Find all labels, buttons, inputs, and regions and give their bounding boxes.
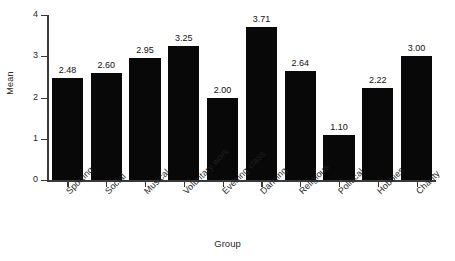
bar-value-label-hobbies: 2.22 xyxy=(365,76,391,85)
bar-value-label-evening-class: 2.00 xyxy=(210,86,236,95)
bar-musical xyxy=(129,58,160,180)
bar-social xyxy=(91,73,122,180)
bar-sporting xyxy=(52,78,83,180)
bar-value-label-sporting: 2.48 xyxy=(54,66,80,75)
bar-value-label-voluntary-work: 3.25 xyxy=(171,34,197,43)
plot-area: 2.482.602.953.252.003.712.641.102.223.00 xyxy=(48,15,436,180)
y-tick-label-4: 4 xyxy=(24,10,38,19)
y-tick-label-1: 1 xyxy=(24,134,38,143)
bar-value-label-dancing: 3.71 xyxy=(248,15,274,24)
bar-charity xyxy=(401,56,432,180)
y-tick-label-0: 0 xyxy=(24,175,38,184)
x-axis-title: Group xyxy=(0,238,455,249)
bar-value-label-musical: 2.95 xyxy=(132,46,158,55)
bar-hobbies xyxy=(362,88,393,180)
y-tick-label-3: 3 xyxy=(24,51,38,60)
y-tick-label-2: 2 xyxy=(24,93,38,102)
y-tick-4 xyxy=(41,15,47,16)
y-axis-title: Mean xyxy=(5,53,15,113)
bar-chart: Mean 4 3 2 1 0 2.482.602.953.252.003.712… xyxy=(0,0,455,261)
y-tick-1 xyxy=(41,139,47,140)
bar-voluntary-work xyxy=(168,46,199,180)
bar-value-label-social: 2.60 xyxy=(93,61,119,70)
bar-value-label-religious: 2.64 xyxy=(287,59,313,68)
bar-value-label-charity: 3.00 xyxy=(404,44,430,53)
y-tick-3 xyxy=(41,56,47,57)
bar-value-label-political: 1.10 xyxy=(326,123,352,132)
y-tick-2 xyxy=(41,98,47,99)
bar-religious xyxy=(285,71,316,180)
